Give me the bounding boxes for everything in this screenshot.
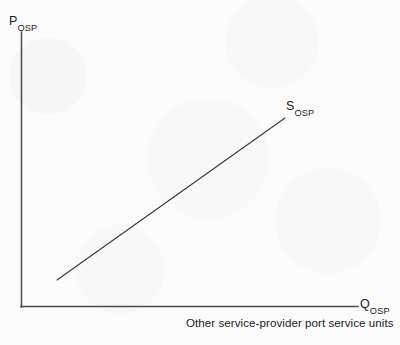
x-axis-label-subscript: OSP: [370, 306, 390, 316]
supply-curve-label-subscript: OSP: [294, 108, 314, 118]
supply-curve-figure: POSP QOSP SOSP Other service-provider po…: [0, 0, 400, 345]
x-axis-label: QOSP: [360, 297, 390, 314]
chart-plot-area: [0, 0, 400, 345]
supply-curve-label: SOSP: [286, 99, 314, 116]
x-axis-label-symbol: Q: [360, 297, 370, 311]
x-axis-caption: Other service-provider port service unit…: [186, 316, 394, 329]
y-axis-label: POSP: [9, 14, 37, 31]
y-axis-label-subscript: OSP: [17, 23, 37, 33]
supply-curve-line: [57, 118, 285, 280]
